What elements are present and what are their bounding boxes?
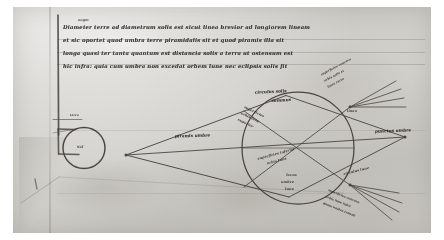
center-caption-3: lune: [283, 187, 296, 191]
center-caption-2: umbre: [281, 180, 294, 184]
sun-tick-label: terra: [70, 113, 79, 117]
upper-ray: [350, 89, 401, 107]
manuscript-page: augm Diameter terre ad diametrum solis e…: [0, 0, 444, 240]
text-line-3: longa quasi ter tanta quantum est distan…: [63, 51, 293, 56]
text-line-1: Diameter terre ad diametrum solis est si…: [63, 25, 310, 30]
left-margin-rule: [58, 15, 59, 135]
sun-circle-label: Sol: [77, 145, 83, 149]
interlinear-gloss: augm: [78, 18, 89, 22]
right-apex-point: [404, 136, 407, 139]
ink-flourish: [35, 179, 37, 189]
sun-circle: [63, 128, 105, 169]
bleed-line: [59, 177, 343, 193]
axis-label: piramis umbre: [175, 133, 210, 139]
upper-right-node-label: linea: [347, 109, 357, 113]
chord-lower-to-apex: [289, 137, 405, 197]
center-caption-1: locus: [285, 173, 298, 177]
center-caption: locus umbre lune: [271, 173, 284, 185]
parchment-leaf: augm Diameter terre ad diametrum solis e…: [13, 7, 431, 233]
text-line-4: hic infra: quia cum umbra non excedat or…: [63, 64, 287, 69]
big-circle-top-label-1: circulus solis: [255, 88, 287, 95]
text-line-2: et sic oportet quod umbra terre piramida…: [63, 38, 284, 43]
bleed-line: [21, 177, 59, 203]
big-circle-top-labels: circulus solis summus: [255, 88, 287, 100]
